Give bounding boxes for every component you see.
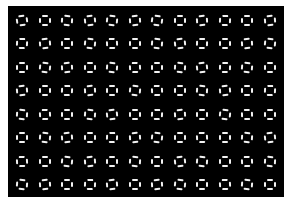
dash-bottom [42, 47, 48, 50]
dash-top [244, 132, 250, 134]
dash-right [26, 112, 28, 117]
dash-left [196, 182, 198, 187]
dashed-square-shape [263, 131, 276, 143]
dashed-square-shape [151, 37, 164, 49]
dash-top [64, 132, 70, 135]
dash-right [93, 88, 95, 93]
dash-top [109, 132, 115, 134]
dash-bottom [154, 188, 160, 190]
dash-top [64, 155, 70, 158]
dash-right [139, 41, 141, 46]
dash-bottom [132, 188, 138, 190]
dash-bottom [176, 70, 182, 72]
dashed-square-shape [151, 108, 164, 120]
dashed-square-shape [264, 62, 276, 73]
dashed-square-shape [106, 85, 118, 96]
dash-top [177, 179, 183, 182]
dash-top [19, 38, 25, 40]
dash-bottom [109, 70, 115, 73]
dash-bottom [87, 141, 93, 143]
dashed-square-shape [196, 38, 208, 49]
dash-top [41, 108, 47, 110]
dash-right [206, 182, 208, 187]
dash-top [18, 14, 24, 17]
dash-bottom [267, 141, 273, 144]
dash-top [244, 85, 250, 87]
dash-right [48, 182, 50, 187]
dashed-square-shape [129, 38, 141, 49]
dashed-square-shape [129, 179, 141, 190]
dash-left [196, 88, 198, 93]
dash-top [41, 179, 47, 181]
dashed-square-shape [38, 108, 51, 120]
dash-top [222, 38, 228, 40]
dash-bottom [244, 164, 250, 166]
dash-top [155, 14, 161, 17]
dash-right [161, 159, 163, 164]
dash-left [106, 135, 108, 140]
dash-left [83, 111, 85, 116]
dash-left [83, 159, 85, 164]
dash-right [26, 65, 28, 70]
dash-left [83, 40, 86, 45]
dash-bottom [199, 141, 205, 143]
dash-left [241, 112, 243, 117]
dash-bottom [109, 47, 115, 49]
dashed-square-shape [196, 14, 209, 26]
dash-left [241, 135, 243, 140]
dash-bottom [266, 164, 272, 166]
dash-left [264, 182, 266, 187]
dash-left [106, 182, 108, 187]
dash-right [228, 65, 230, 70]
dash-bottom [132, 141, 138, 143]
dash-top [199, 132, 205, 134]
dash-left [61, 41, 63, 46]
dash-bottom [177, 164, 183, 167]
dashed-square-shape [83, 108, 96, 120]
dash-right [273, 17, 275, 22]
dash-top [87, 38, 93, 41]
dash-left [84, 135, 86, 140]
dash-top [42, 15, 48, 17]
dash-top [199, 109, 205, 111]
dash-right [274, 182, 276, 187]
dash-right [251, 88, 253, 93]
dash-bottom [222, 141, 228, 143]
dashed-square-shape [61, 38, 73, 49]
dash-top [222, 108, 228, 111]
dash-top [244, 38, 250, 40]
dash-bottom [267, 188, 273, 190]
dash-bottom [222, 94, 228, 97]
dash-right [71, 64, 73, 69]
dashed-square-shape [196, 85, 209, 97]
dashed-square-shape [218, 84, 231, 96]
dash-left [151, 17, 154, 22]
dashed-square-shape [106, 178, 119, 190]
dashed-square-shape [241, 155, 254, 167]
dash-right [93, 17, 96, 22]
dash-left [106, 159, 108, 164]
dash-bottom [131, 164, 137, 166]
dash-left [129, 182, 131, 187]
dash-right [48, 111, 50, 116]
dash-top [199, 14, 205, 16]
dashed-square-shape [264, 179, 276, 190]
dashed-square-shape [196, 155, 209, 167]
dashed-square-shape [174, 132, 186, 143]
dash-left [39, 18, 41, 23]
dash-right [93, 112, 95, 117]
dash-left [151, 182, 153, 187]
dash-left [241, 88, 243, 93]
dash-left [173, 112, 175, 117]
dash-bottom [109, 165, 115, 167]
dash-left [241, 181, 243, 186]
dash-right [161, 182, 163, 187]
dash-top [222, 61, 228, 63]
dash-bottom [244, 47, 250, 49]
dash-bottom [222, 165, 228, 167]
dash-top [42, 132, 48, 135]
dash-bottom [244, 188, 250, 191]
dash-left [151, 88, 153, 93]
dashed-square-shape [241, 178, 254, 190]
dashed-square-shape [16, 62, 28, 73]
